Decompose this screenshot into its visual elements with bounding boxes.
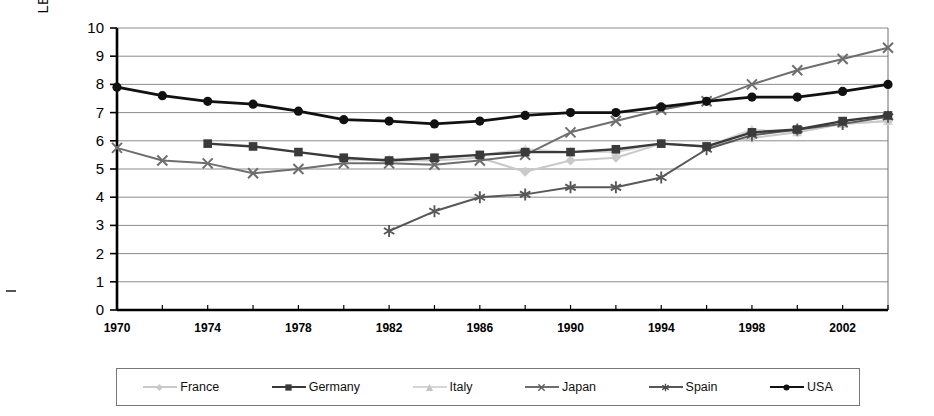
- legend-label-spain: Spain: [686, 380, 718, 394]
- legend-item-japan[interactable]: Japan: [525, 380, 596, 394]
- legend-item-germany[interactable]: Germany: [272, 380, 360, 394]
- legend-label-usa: USA: [807, 380, 833, 394]
- legend-label-germany: Germany: [309, 380, 360, 394]
- chart-legend: France Germany Italy Japan Spain USA: [116, 368, 860, 406]
- series-spain: [384, 111, 893, 237]
- legend-label-japan: Japan: [562, 380, 596, 394]
- legend-item-italy[interactable]: Italy: [413, 380, 473, 394]
- series-germany: [203, 111, 892, 165]
- series-japan: [112, 43, 893, 178]
- legend-item-usa[interactable]: USA: [770, 380, 833, 394]
- legend-label-italy: Italy: [450, 380, 473, 394]
- chart-container: LBW – % of live births 012345678910 1970…: [0, 0, 934, 416]
- legend-item-spain[interactable]: Spain: [649, 380, 718, 394]
- legend-label-france: France: [180, 380, 219, 394]
- series-usa: [112, 80, 892, 129]
- plot-area: [0, 0, 934, 416]
- legend-item-france[interactable]: France: [143, 380, 219, 394]
